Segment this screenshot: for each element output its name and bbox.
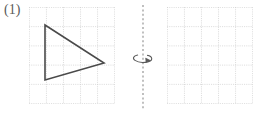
axis-layer xyxy=(0,0,260,115)
rotation-figure: (1) xyxy=(0,0,260,115)
